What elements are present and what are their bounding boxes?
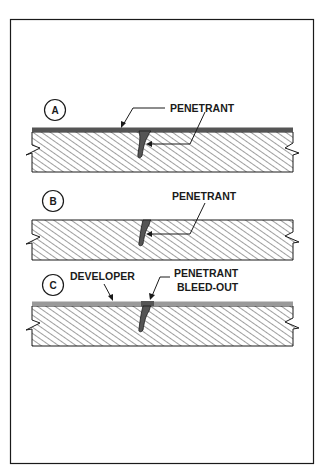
panel-a-label-penetrant: PENETRANT (170, 102, 235, 114)
panel-c-label-bleedout-line1: PENETRANT (174, 267, 239, 279)
panel-c-developer-coating (32, 302, 293, 307)
panel-c-label-bleedout-line2: BLEED-OUT (177, 281, 239, 293)
panel-c-bleed-out (141, 301, 154, 306)
panel-a-penetrant-coating (32, 128, 293, 133)
panel-c-label-developer: DEVELOPER (70, 270, 135, 282)
panel-a-marker: A (51, 105, 58, 116)
panel-a-plate (26, 132, 299, 172)
penetrant-inspection-diagram: A PENETRANT B PENETRANT C DEVEL (0, 0, 323, 475)
panel-b-plate (26, 220, 299, 260)
panel-b-marker: B (49, 196, 56, 207)
panel-b-label-penetrant: PENETRANT (172, 190, 237, 202)
panel-c-marker: C (49, 280, 56, 291)
panel-c-plate (26, 306, 299, 346)
